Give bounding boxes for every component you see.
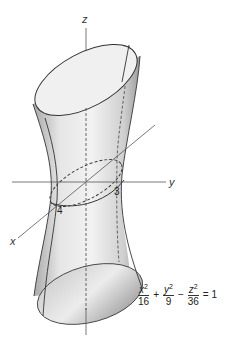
fraction-y: y2 9 (163, 281, 174, 307)
fraction-z: z2 36 (188, 281, 199, 307)
exponent: 2 (144, 283, 148, 290)
equation: x2 16 + y2 9 − z2 36 = 1 (136, 281, 219, 307)
equation-rhs: = 1 (203, 289, 217, 300)
x-axis-label: x (9, 235, 16, 247)
y-intercept-label: 3 (114, 186, 120, 197)
x-intercept-label: 4 (57, 205, 63, 216)
exponent: 2 (169, 283, 173, 290)
plus-operator: + (153, 289, 159, 300)
fraction-x: x2 16 (138, 281, 149, 307)
y-axis-label: y (168, 176, 176, 188)
denominator: 16 (138, 296, 149, 307)
exponent: 2 (194, 283, 198, 290)
denominator: 36 (188, 296, 199, 307)
minus-operator: − (178, 289, 184, 300)
denominator: 9 (166, 296, 172, 307)
z-axis-label: z (81, 13, 88, 25)
